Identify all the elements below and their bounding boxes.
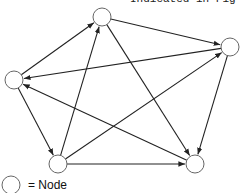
nodes: [5, 8, 239, 173]
edge-A-B: [111, 19, 221, 45]
edges: [18, 19, 227, 164]
edge-D-A: [61, 27, 100, 156]
node-A: [93, 8, 111, 26]
edge-A-E: [107, 25, 190, 156]
edge-B-E: [198, 56, 228, 155]
node-C: [5, 71, 23, 89]
legend-node-icon: [2, 176, 20, 193]
node-D: [49, 155, 67, 173]
node-E: [186, 155, 204, 173]
directed-graph: [0, 0, 242, 193]
node-B: [221, 38, 239, 56]
edge-B-C: [24, 48, 221, 78]
legend-label: = Node: [28, 178, 67, 192]
edge-C-D: [18, 88, 53, 155]
edge-E-C: [23, 84, 187, 160]
edge-C-A: [21, 23, 94, 75]
